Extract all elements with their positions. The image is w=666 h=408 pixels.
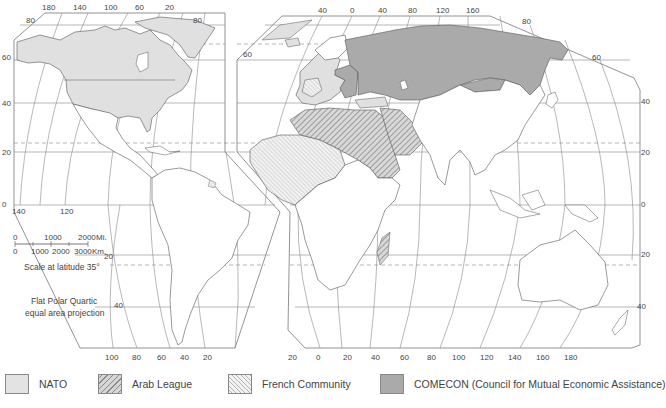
- svg-text:equal area projection: equal area projection: [25, 308, 105, 318]
- svg-text:0: 0: [350, 6, 355, 15]
- svg-text:80: 80: [193, 16, 202, 25]
- svg-text:40: 40: [318, 6, 327, 15]
- svg-text:1000: 1000: [44, 233, 62, 242]
- legend-label: COMECON (Council for Mutual Economic Ass…: [414, 378, 666, 390]
- french-community-swatch: [228, 374, 252, 394]
- svg-text:160: 160: [466, 6, 480, 15]
- svg-text:160: 160: [536, 353, 550, 362]
- svg-text:80: 80: [26, 16, 35, 25]
- legend-label: Arab League: [132, 378, 192, 390]
- map-legend: NATO Arab League French Community COMECO…: [0, 372, 653, 402]
- svg-text:140: 140: [73, 3, 87, 12]
- svg-text:0: 0: [13, 233, 18, 242]
- svg-text:80: 80: [408, 6, 417, 15]
- region-borneo: [522, 190, 545, 210]
- svg-text:0: 0: [13, 247, 18, 256]
- right-bottom-longitude-labels: 20 0 20 40 60 80 100 120 140 160 180: [288, 353, 578, 362]
- right-panel-eastern-hemisphere: [237, 16, 640, 348]
- world-alliances-map: 180 140 100 60 20 80 80 60 40 20 0 20 40…: [0, 0, 653, 372]
- svg-text:40: 40: [180, 353, 189, 362]
- legend-item-french-community: French Community: [228, 372, 351, 396]
- svg-text:120: 120: [436, 6, 450, 15]
- svg-text:140: 140: [508, 353, 522, 362]
- scale-caption: Scale at latitude 35°: [24, 262, 100, 272]
- svg-text:80: 80: [427, 353, 436, 362]
- svg-text:20: 20: [641, 250, 650, 259]
- svg-text:20: 20: [288, 353, 297, 362]
- region-australia: [518, 230, 608, 310]
- svg-text:60: 60: [135, 3, 144, 12]
- svg-text:40: 40: [2, 99, 11, 108]
- svg-text:40: 40: [114, 301, 123, 310]
- svg-text:180: 180: [42, 3, 56, 12]
- svg-text:20: 20: [203, 353, 212, 362]
- svg-text:20: 20: [641, 148, 650, 157]
- svg-text:80: 80: [132, 353, 141, 362]
- region-south-america: [152, 168, 250, 345]
- svg-text:100: 100: [104, 3, 118, 12]
- svg-text:20: 20: [165, 3, 174, 12]
- svg-text:120: 120: [60, 207, 74, 216]
- svg-text:60: 60: [157, 353, 166, 362]
- legend-item-nato: NATO: [5, 372, 67, 396]
- svg-text:20: 20: [2, 148, 11, 157]
- svg-text:180: 180: [564, 353, 578, 362]
- svg-text:Flat Polar Quartic: Flat Polar Quartic: [31, 296, 98, 306]
- svg-text:40: 40: [641, 97, 650, 106]
- svg-text:40: 40: [378, 6, 387, 15]
- svg-text:Km.: Km.: [92, 247, 106, 256]
- region-madagascar: [377, 232, 390, 265]
- svg-text:100: 100: [452, 353, 466, 362]
- projection-note: Flat Polar Quartic equal area projection: [25, 296, 105, 318]
- svg-text:60: 60: [243, 50, 252, 59]
- left-top-longitude-labels: 180 140 100 60 20: [42, 3, 174, 12]
- legend-item-comecon: COMECON (Council for Mutual Economic Ass…: [380, 372, 666, 396]
- legend-label: French Community: [262, 378, 351, 390]
- region-greenland-east: [262, 20, 312, 40]
- region-iceland: [285, 38, 300, 47]
- svg-text:80: 80: [522, 17, 531, 26]
- svg-text:1000: 1000: [31, 247, 49, 256]
- svg-text:120: 120: [480, 353, 494, 362]
- svg-text:2000: 2000: [78, 233, 96, 242]
- svg-text:0: 0: [641, 200, 646, 209]
- left-bottom-longitude-labels: 100 80 60 40 20: [105, 353, 212, 362]
- nato-swatch: [5, 374, 29, 394]
- svg-text:100: 100: [105, 353, 119, 362]
- svg-text:3000: 3000: [74, 247, 92, 256]
- svg-text:60: 60: [2, 53, 11, 62]
- region-japan: [546, 92, 558, 108]
- right-top-longitude-labels: 40 0 40 80 120 160: [318, 6, 480, 15]
- svg-text:40: 40: [637, 302, 646, 311]
- arab-league-swatch: [98, 374, 122, 394]
- svg-text:0: 0: [316, 353, 321, 362]
- svg-text:60: 60: [592, 53, 601, 62]
- svg-text:140: 140: [12, 207, 26, 216]
- region-new-zealand: [612, 310, 628, 335]
- legend-item-arab-league: Arab League: [98, 372, 192, 396]
- svg-text:40: 40: [371, 353, 380, 362]
- legend-label: NATO: [39, 378, 67, 390]
- caribbean-islands: [145, 146, 180, 155]
- svg-text:60: 60: [400, 353, 409, 362]
- svg-text:2000: 2000: [52, 247, 70, 256]
- region-new-guinea: [565, 205, 598, 222]
- svg-text:0: 0: [2, 200, 7, 209]
- svg-text:Mi.: Mi.: [96, 233, 107, 242]
- comecon-swatch: [380, 374, 404, 394]
- svg-text:20: 20: [343, 353, 352, 362]
- region-turkey-nato: [355, 97, 388, 108]
